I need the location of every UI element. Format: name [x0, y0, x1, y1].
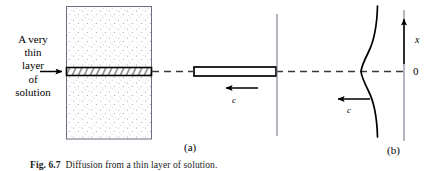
- thin-layer-caption: A very thin layer of solution: [2, 33, 64, 99]
- figure-caption-number: Fig. 6.7: [30, 160, 61, 170]
- thin-solution-layer: [67, 68, 152, 76]
- capillary-tube: [194, 67, 276, 76]
- figure-caption: Fig. 6.7 Diffusion from a thin layer of …: [30, 160, 217, 171]
- capillary-tube-rect: [194, 67, 276, 76]
- figure-caption-body: Diffusion from a thin layer of solution.: [61, 160, 218, 170]
- panel-a-label: (a): [184, 141, 196, 153]
- figure-container: A very thin layer of solution c c x 0 (a…: [0, 0, 430, 171]
- panel-b-label: (b): [387, 144, 400, 156]
- axis-origin-label: 0: [413, 65, 419, 77]
- axis-x-label: x: [415, 34, 419, 45]
- flux-arrow-a-label: c: [232, 95, 236, 105]
- flux-arrow-b-label: c: [347, 105, 351, 115]
- figure-diagram: [0, 0, 430, 171]
- thin-solution-layer-rect: [67, 68, 152, 76]
